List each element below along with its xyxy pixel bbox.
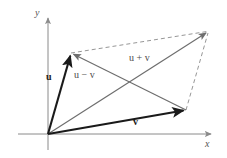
vector-diagram: y x u v u − v u + v: [0, 0, 227, 158]
vector-u-label: u: [46, 72, 52, 82]
vector-u-plus-v-label: u + v: [129, 53, 150, 63]
vector-u-plus-v: [48, 33, 206, 134]
vector-u-minus-v-label: u − v: [74, 70, 95, 80]
dashed-edge-u-to-sum: [71, 32, 207, 54]
x-axis-label: x: [205, 139, 209, 149]
vector-v: [48, 111, 184, 135]
diagram-canvas: [0, 0, 227, 158]
y-axis-label: y: [35, 8, 39, 18]
dashed-edge-v-to-sum: [186, 33, 208, 110]
vector-v-label: v: [133, 117, 138, 127]
